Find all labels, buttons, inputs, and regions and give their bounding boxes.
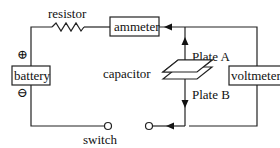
switch-terminal-right (146, 123, 153, 130)
plate-b-label: Plate B (192, 87, 230, 102)
battery-label: battery (14, 68, 51, 83)
minus-icon: ⊖ (17, 85, 28, 100)
plus-icon: ⊕ (17, 47, 28, 62)
resistor-label: resistor (48, 6, 87, 21)
wire-left-top (31, 27, 52, 66)
resistor-symbol (52, 23, 84, 31)
switch-label: switch (83, 132, 117, 147)
switch-terminal-left (105, 123, 112, 130)
capacitor-label: capacitor (103, 66, 151, 81)
ammeter-label: ammeter (114, 19, 160, 34)
circuit-diagram: resistor ammeter Plate A capacitor Plate… (0, 0, 280, 148)
arrow-left-top-icon (164, 24, 172, 31)
wire-left-bottom (31, 85, 105, 126)
arrow-up-icon (182, 37, 189, 45)
voltmeter-label: voltmeter (231, 68, 280, 83)
arrow-down-icon (182, 100, 189, 108)
